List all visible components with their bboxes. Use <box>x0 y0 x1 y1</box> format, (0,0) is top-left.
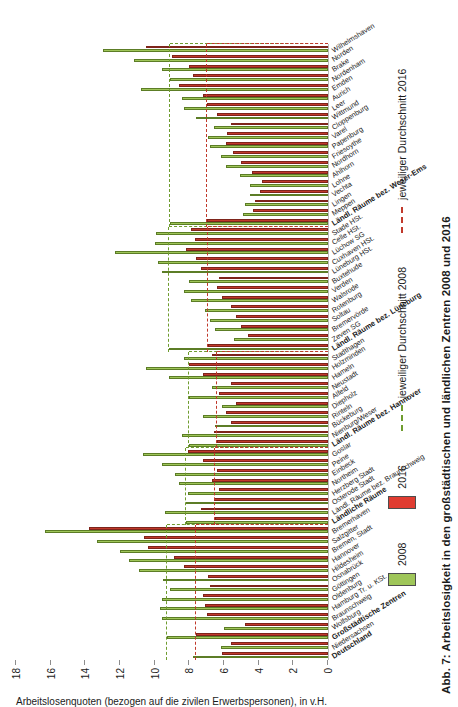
bar-2016 <box>233 151 328 154</box>
legend-dash-2016-icon <box>401 207 403 233</box>
legend-label-2016: 2016 <box>396 465 408 488</box>
bar-2016 <box>195 238 328 241</box>
bar-2016 <box>179 84 328 87</box>
bar-2016 <box>201 508 328 511</box>
bar-2016 <box>205 604 328 607</box>
average-line-2016 <box>216 352 217 448</box>
bar-2008 <box>103 49 328 52</box>
axis-tick <box>154 660 155 665</box>
bar-2016 <box>219 488 328 491</box>
average-stem-2016 <box>208 226 328 227</box>
bar-2016 <box>231 305 328 308</box>
plot-inner <box>16 44 328 660</box>
average-line-2008 <box>168 227 169 352</box>
bar-2008 <box>193 656 328 659</box>
bar-2008 <box>188 492 328 495</box>
axis-tick <box>188 660 189 665</box>
bar-2008 <box>215 328 328 331</box>
bar-2008 <box>221 155 328 158</box>
axis-tick <box>15 660 16 665</box>
bar-2008 <box>167 636 328 639</box>
bar-2016 <box>203 373 328 376</box>
average-stem-2016 <box>207 43 328 44</box>
bar-2008 <box>162 271 328 274</box>
legend-entry-2008: 2008 <box>388 543 416 586</box>
bar-2016 <box>236 402 328 405</box>
bar-2016 <box>193 74 328 77</box>
bar-2008 <box>163 579 328 582</box>
bar-2016 <box>222 296 328 299</box>
axis-tick-label: 10 <box>150 668 161 686</box>
bar-2016 <box>184 565 328 568</box>
bar-2008 <box>210 319 328 322</box>
bar-2008 <box>158 261 328 264</box>
bar-2016 <box>222 652 328 655</box>
bar-2008 <box>234 338 328 341</box>
bar-2016 <box>262 180 328 183</box>
bar-2016 <box>201 267 328 270</box>
average-stem-2016 <box>217 351 328 352</box>
average-line-2016 <box>195 525 196 660</box>
bar-2016 <box>260 190 328 193</box>
bar-2016 <box>174 556 328 559</box>
figure-caption: Abb. 7: Arbeitslosigkeit in den großstäd… <box>440 216 452 694</box>
bar-2008 <box>191 299 328 302</box>
bar-2008 <box>182 434 328 437</box>
bar-2008 <box>160 607 328 610</box>
bar-2008 <box>240 174 328 177</box>
axis-tick-label: 6 <box>219 668 230 686</box>
bar-2016 <box>226 142 328 145</box>
axis-tick <box>292 660 293 665</box>
legend-swatch-2016-icon <box>388 496 416 509</box>
legend-dash-2008-icon <box>401 405 403 431</box>
bar-2008 <box>156 232 328 235</box>
bar-2008 <box>139 569 328 572</box>
bar-2008 <box>226 165 328 168</box>
axis-tick <box>119 660 120 665</box>
bar-2016 <box>219 392 328 395</box>
bar-2008 <box>186 502 328 505</box>
bar-2008 <box>162 68 328 71</box>
axis-tick-label: 16 <box>46 668 57 686</box>
bar-2008 <box>120 550 328 553</box>
bars-container <box>16 44 328 660</box>
bar-2008 <box>214 126 328 129</box>
legend-entry-2016: 2016 <box>388 465 416 508</box>
bar-2008 <box>143 453 328 456</box>
average-line-2008 <box>166 525 167 660</box>
axis-tick-label: 2 <box>288 668 299 686</box>
bar-2008 <box>129 559 328 562</box>
bar-2008 <box>170 588 328 591</box>
bar-2016 <box>214 498 328 501</box>
bar-2008 <box>146 367 328 370</box>
bar-2008 <box>155 242 328 245</box>
bar-2008 <box>162 617 328 620</box>
axis-tick-label: 0 <box>323 668 334 686</box>
bar-2008 <box>184 290 328 293</box>
bar-2016 <box>219 277 328 280</box>
bar-2016 <box>217 469 328 472</box>
y-axis-title: Arbeitslosenquoten (bezogen auf die zivi… <box>16 696 327 707</box>
bar-2016 <box>189 65 328 68</box>
bar-2008 <box>189 396 328 399</box>
bar-2016 <box>212 354 328 357</box>
bar-2008 <box>162 463 328 466</box>
average-stem-2016 <box>215 447 328 448</box>
plot-area: 024681012141618 <box>16 44 329 660</box>
average-stem-2016 <box>196 524 328 525</box>
average-line-2008 <box>169 44 170 227</box>
bar-2016 <box>226 411 328 414</box>
bar-2016 <box>208 575 328 578</box>
bar-2008 <box>184 357 328 360</box>
bar-2016 <box>207 103 328 106</box>
bar-2008 <box>182 97 328 100</box>
axis-tick <box>258 660 259 665</box>
bar-2008 <box>162 598 328 601</box>
axis-tick <box>223 660 224 665</box>
bar-2008 <box>175 473 328 476</box>
bar-2008 <box>243 213 328 216</box>
bar-2008 <box>221 646 328 649</box>
axis-tick-label: 4 <box>254 668 265 686</box>
bar-2016 <box>214 431 328 434</box>
average-line-2016 <box>207 227 208 352</box>
